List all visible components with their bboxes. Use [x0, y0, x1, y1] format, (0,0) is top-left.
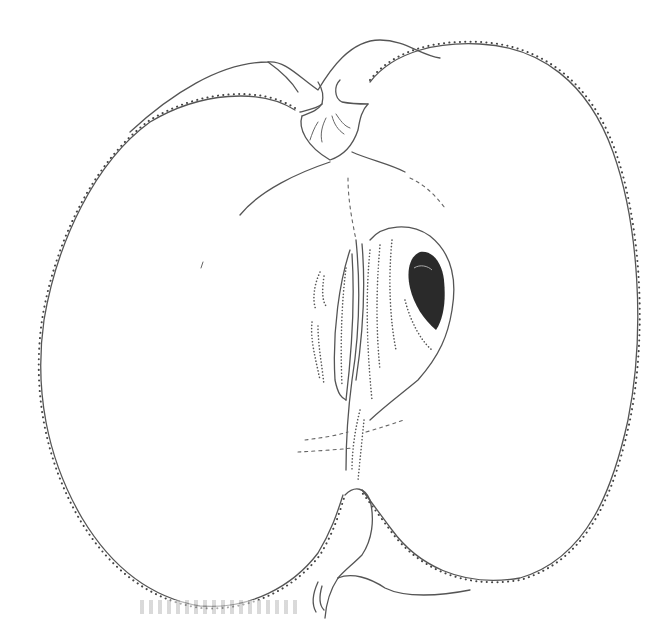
transverse-line-1 — [305, 432, 348, 440]
right-lobe-edge — [362, 44, 638, 581]
core-boundary-right — [352, 152, 405, 172]
stipple-patches — [312, 272, 326, 385]
right-lobe-outline — [360, 42, 640, 583]
seed — [408, 252, 444, 330]
apple-back-outline — [130, 40, 440, 132]
transverse-line-3 — [366, 420, 404, 432]
apple-section-illustration — [0, 0, 657, 630]
core-boundary-right-dashed — [410, 178, 445, 208]
core-mark-left — [201, 262, 203, 268]
core-boundary-left — [240, 162, 330, 215]
stem-cavity — [300, 80, 368, 160]
stem-shoulder-left — [268, 62, 298, 92]
transverse-line-2 — [298, 448, 352, 452]
bottom-faded-edge — [140, 600, 300, 614]
core-line-inner — [356, 244, 364, 380]
core-line-upper — [348, 178, 356, 240]
left-lobe-outline — [39, 94, 345, 608]
carpel-wedge — [334, 250, 353, 400]
apple-drawing — [0, 0, 657, 630]
calyx — [313, 489, 470, 618]
